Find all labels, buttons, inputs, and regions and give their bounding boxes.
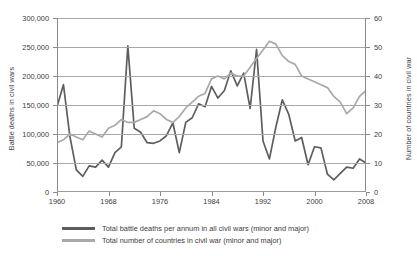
y-axis-left-tick	[53, 134, 57, 135]
series-line	[57, 41, 366, 143]
y-axis-left-tick-label: 150,000	[0, 101, 49, 110]
y-axis-right-tick-label: 60	[374, 14, 382, 23]
gridline	[57, 18, 366, 19]
x-axis-tick-label: 1984	[203, 197, 219, 206]
plot-area	[57, 18, 366, 192]
gridline	[57, 134, 366, 135]
y-axis-left-tick-label: 300,000	[0, 14, 49, 23]
legend-item: Total number of countries in civil war (…	[62, 234, 309, 246]
y-axis-right-tick-label: 20	[374, 130, 382, 139]
gridline	[57, 47, 366, 48]
y-axis-left-tick	[53, 18, 57, 19]
y-axis-right-tick	[366, 76, 370, 77]
y-axis-left-tick-label: 50,000	[0, 159, 49, 168]
y-axis-right-tick-label: 40	[374, 72, 382, 81]
x-axis-tick	[212, 192, 213, 196]
y-axis-left-line	[57, 18, 58, 192]
x-axis-tick-label: 1968	[100, 197, 116, 206]
legend-label: Total battle deaths per annum in all civ…	[102, 224, 309, 233]
y-axis-left-tick	[53, 76, 57, 77]
y-axis-right-title: Number of countries in civil war	[404, 44, 413, 174]
chart-legend: Total battle deaths per annum in all civ…	[62, 222, 309, 246]
legend-item: Total battle deaths per annum in all civ…	[62, 222, 309, 234]
x-axis-tick	[109, 192, 110, 196]
x-axis-tick	[57, 192, 58, 196]
x-axis-tick-label: 2000	[306, 197, 322, 206]
legend-label: Total number of countries in civil war (…	[102, 236, 282, 245]
x-axis-tick	[160, 192, 161, 196]
y-axis-left-tick-label: 200,000	[0, 72, 49, 81]
x-axis-tick	[366, 192, 367, 196]
y-axis-left-tick	[53, 163, 57, 164]
gridline	[57, 76, 366, 77]
y-axis-left-tick-label: 100,000	[0, 130, 49, 139]
legend-color-swatch	[62, 239, 95, 242]
y-axis-left-tick-label: 250,000	[0, 43, 49, 52]
chart-container: Battle deaths in civil wars Number of co…	[0, 0, 417, 256]
x-axis-tick-label: 2008	[358, 197, 374, 206]
x-axis-tick-label: 1976	[152, 197, 168, 206]
y-axis-right-tick	[366, 163, 370, 164]
series-line	[57, 46, 366, 180]
x-axis-tick-label: 1960	[49, 197, 65, 206]
x-axis-tick	[263, 192, 264, 196]
legend-color-swatch	[62, 227, 95, 230]
y-axis-right-tick	[366, 47, 370, 48]
y-axis-left-tick	[53, 47, 57, 48]
x-axis-tick-label: 1992	[255, 197, 271, 206]
gridline	[57, 163, 366, 164]
y-axis-left-tick	[53, 105, 57, 106]
y-axis-right-tick	[366, 105, 370, 106]
y-axis-right-tick-label: 10	[374, 159, 382, 168]
y-axis-right-tick	[366, 134, 370, 135]
y-axis-left-tick-label: 0	[0, 188, 49, 197]
y-axis-right-tick-label: 0	[374, 188, 378, 197]
gridline	[57, 105, 366, 106]
y-axis-right-tick-label: 30	[374, 101, 382, 110]
y-axis-right-tick	[366, 18, 370, 19]
x-axis-tick	[315, 192, 316, 196]
y-axis-right-tick-label: 50	[374, 43, 382, 52]
